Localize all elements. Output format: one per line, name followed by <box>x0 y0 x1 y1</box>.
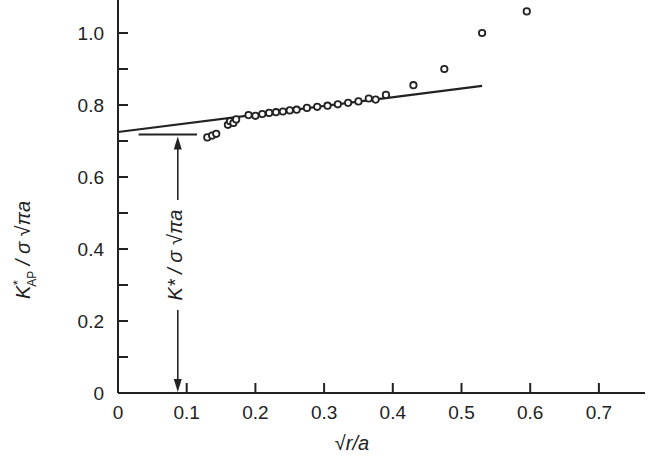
y-axis-ticks: 00.20.40.60.81.0 <box>78 23 128 404</box>
y-axis-title: K*AP / σ √πa <box>10 201 39 299</box>
x-tick-label: 0.7 <box>586 402 612 423</box>
y-tick-label: 0.8 <box>78 95 104 116</box>
arrow-down-icon <box>174 379 182 392</box>
data-point <box>335 101 341 107</box>
data-point <box>441 66 447 72</box>
data-point <box>252 113 258 119</box>
x-axis-title: √r/a <box>335 432 369 454</box>
x-axis-ticks: 00.10.20.30.40.50.60.7 <box>113 383 612 423</box>
x-tick-label: 0.1 <box>173 402 199 423</box>
data-point <box>245 112 251 118</box>
data-point <box>524 8 530 14</box>
arrow-up-icon <box>174 137 182 150</box>
data-point <box>273 109 279 115</box>
y-tick-label: 0.4 <box>78 239 105 260</box>
data-point <box>259 111 265 117</box>
arrow-label: K* / σ √πa <box>164 200 189 310</box>
data-point <box>410 82 416 88</box>
x-tick-label: 0.3 <box>311 402 337 423</box>
data-point <box>280 108 286 114</box>
data-point <box>372 96 378 102</box>
chart-svg: 00.10.20.30.40.50.60.7 00.20.40.60.81.0 … <box>0 0 649 462</box>
data-point <box>266 110 272 116</box>
data-point <box>479 30 485 36</box>
data-point <box>345 100 351 106</box>
y-tick-label: 1.0 <box>78 23 104 44</box>
y-tick-label: 0.2 <box>78 311 104 332</box>
data-point <box>304 105 310 111</box>
data-point <box>287 107 293 113</box>
data-point <box>366 95 372 101</box>
data-point <box>213 131 219 137</box>
axes <box>118 0 645 393</box>
x-tick-label: 0.5 <box>448 402 474 423</box>
data-point <box>233 116 239 122</box>
y-tick-label: 0.6 <box>78 167 104 188</box>
y-tick-label: 0 <box>93 383 104 404</box>
x-tick-label: 0.2 <box>242 402 268 423</box>
data-point <box>324 103 330 109</box>
x-tick-label: 0 <box>113 402 124 423</box>
data-point <box>314 104 320 110</box>
data-points <box>204 8 530 140</box>
data-point <box>355 98 361 104</box>
x-tick-label: 0.4 <box>380 402 407 423</box>
data-point <box>383 92 389 98</box>
data-point <box>293 106 299 112</box>
svg-text:K* / σ √πa: K* / σ √πa <box>164 210 186 301</box>
x-tick-label: 0.6 <box>517 402 543 423</box>
svg-text:K*AP / σ √πa: K*AP / σ √πa <box>10 201 39 299</box>
